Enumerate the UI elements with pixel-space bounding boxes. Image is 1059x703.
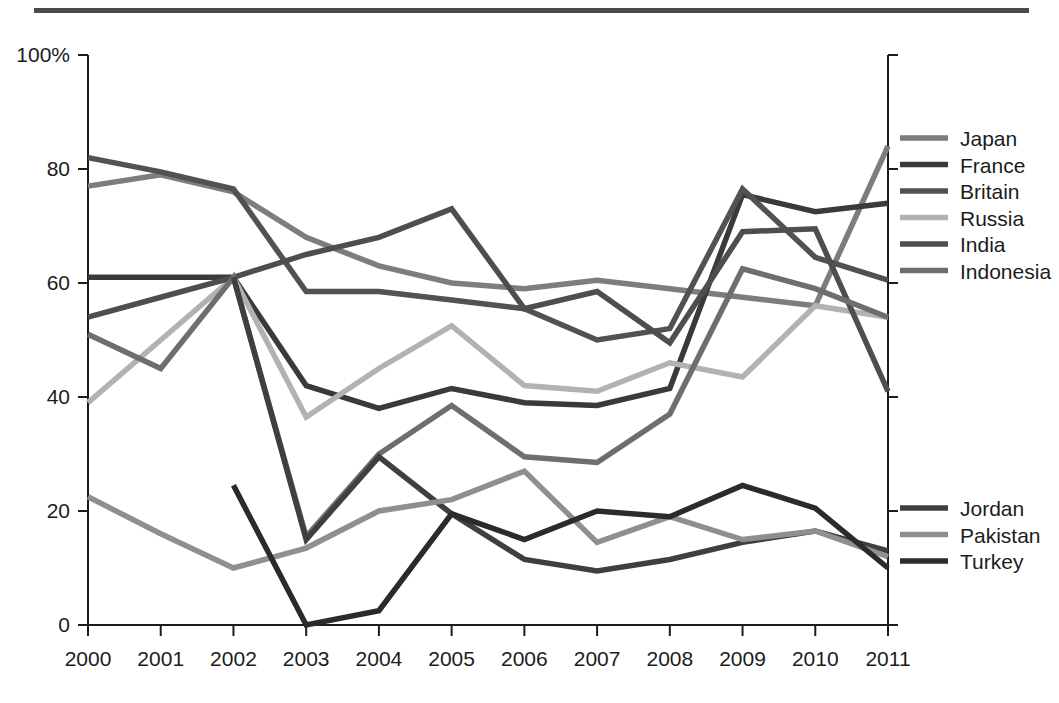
legend-label-pakistan: Pakistan bbox=[960, 524, 1041, 547]
y-axis-tick-label: 80 bbox=[47, 157, 70, 180]
x-axis-tick-label: 2008 bbox=[646, 647, 693, 670]
x-axis-tick-label: 2006 bbox=[501, 647, 548, 670]
legend-swatch-indonesia bbox=[900, 268, 948, 274]
x-axis-tick-label: 2005 bbox=[428, 647, 475, 670]
y-axis-tick-label: 20 bbox=[47, 499, 70, 522]
x-axis-tick-label: 2003 bbox=[283, 647, 330, 670]
legend-swatch-turkey bbox=[900, 558, 948, 564]
x-axis-tick-label: 2010 bbox=[792, 647, 839, 670]
legend-swatch-japan bbox=[900, 135, 948, 141]
x-axis-tick-label: 2009 bbox=[719, 647, 766, 670]
legend-label-india: India bbox=[960, 233, 1006, 256]
series-line-indonesia bbox=[88, 269, 888, 537]
y-axis-tick-label: 60 bbox=[47, 271, 70, 294]
chart-canvas: 020406080100%200020012002200320042005200… bbox=[0, 0, 1059, 703]
legend-swatch-pakistan bbox=[900, 532, 948, 538]
chart-page: 020406080100%200020012002200320042005200… bbox=[0, 0, 1059, 703]
legend-swatch-india bbox=[900, 241, 948, 247]
series-line-pakistan bbox=[88, 471, 888, 568]
x-axis-tick-label: 2002 bbox=[210, 647, 257, 670]
legend-swatch-russia bbox=[900, 215, 948, 221]
legend-label-france: France bbox=[960, 154, 1025, 177]
legend-label-japan: Japan bbox=[960, 127, 1017, 150]
legend-label-indonesia: Indonesia bbox=[960, 260, 1051, 283]
y-axis-tick-label: 0 bbox=[58, 613, 70, 636]
x-axis-tick-label: 2007 bbox=[574, 647, 621, 670]
legend-swatch-jordan bbox=[900, 505, 948, 511]
legend-swatch-france bbox=[900, 162, 948, 168]
line-chart: 020406080100%200020012002200320042005200… bbox=[0, 0, 1059, 703]
legend-swatch-britain bbox=[900, 188, 948, 194]
legend-label-britain: Britain bbox=[960, 180, 1020, 203]
x-axis-tick-label: 2001 bbox=[137, 647, 184, 670]
x-axis-tick-label: 2011 bbox=[865, 647, 910, 670]
x-axis-tick-label: 2004 bbox=[356, 647, 403, 670]
legend-label-jordan: Jordan bbox=[960, 497, 1024, 520]
y-axis-tick-label: 40 bbox=[47, 385, 70, 408]
legend-label-turkey: Turkey bbox=[960, 550, 1024, 573]
y-axis-tick-label: 100% bbox=[16, 43, 70, 66]
x-axis-tick-label: 2000 bbox=[65, 647, 112, 670]
legend-label-russia: Russia bbox=[960, 207, 1025, 230]
